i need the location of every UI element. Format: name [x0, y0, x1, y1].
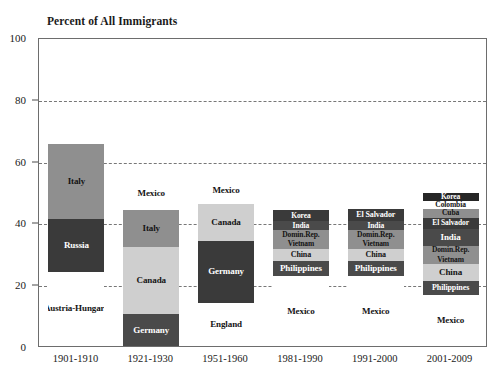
x-tick-label-1921-1930: 1921-1930 [128, 353, 174, 364]
x-tick-label-2001-2009: 2001-2009 [427, 353, 473, 364]
chart-title: Percent of All Immigrants [47, 15, 177, 27]
bar-segment[interactable]: Domin.Rep. [348, 230, 404, 239]
bar-segment-label: India [367, 222, 384, 230]
y-tick-label: 60 [15, 156, 26, 168]
bar-segment-label: Mexico [212, 186, 239, 195]
bar-segment[interactable]: Mexico [423, 295, 479, 346]
y-tick-label: 100 [10, 32, 27, 44]
bar-segment[interactable]: India [423, 229, 479, 246]
bar-segment-label: Domin.Rep. [357, 231, 394, 239]
bar-segment[interactable]: Mexico [198, 178, 254, 204]
bar-segment-label: Mexico [437, 316, 464, 325]
bar-segment[interactable]: India [348, 221, 404, 230]
bar-segment-label: Philippines [432, 284, 469, 292]
bar-segment[interactable]: Cuba [423, 209, 479, 218]
bar-segment-label: India [293, 222, 310, 230]
gridline-40 [39, 224, 486, 225]
gridline-20 [39, 286, 486, 287]
bar-segment[interactable]: China [348, 249, 404, 261]
bar-segment-label: Italy [142, 224, 160, 233]
x-tick-label-1991-2000: 1991-2000 [352, 353, 398, 364]
bar-segment[interactable]: Vietnam [273, 239, 329, 248]
immigration-stacked-bar-chart: Percent of All Immigrants 020406080100 A… [0, 0, 500, 383]
bar-1921-1930[interactable]: GermanyCanadaItalyMexico [123, 178, 179, 346]
bar-1951-1960[interactable]: EnglandGermanyCanadaMexico [198, 178, 254, 346]
bar-1991-2000[interactable]: MexicoPhilippinesChinaVietnamDomin.Rep.I… [348, 199, 404, 346]
x-tick-label-1901-1910: 1901-1910 [53, 353, 99, 364]
gridline-80 [39, 101, 486, 102]
y-axis: 020406080100 [0, 0, 38, 383]
bar-segment[interactable]: Colombia [423, 201, 479, 209]
bar-segment[interactable]: Mexico [123, 178, 179, 210]
bar-segment[interactable]: Russia [48, 219, 104, 272]
y-tick-label: 20 [15, 279, 26, 291]
bar-segment[interactable]: El Salvador [348, 209, 404, 221]
bar-segment-label: Canada [211, 218, 240, 227]
bar-segment-label: Korea [441, 193, 460, 201]
bar-segment[interactable]: Italy [123, 210, 179, 247]
x-tick-label-1951-1960: 1951-1960 [202, 353, 248, 364]
bar-segment-label: El Salvador [356, 211, 395, 219]
bar-segment-label: Germany [133, 326, 169, 335]
x-tick-label-1981-1990: 1981-1990 [277, 353, 323, 364]
bar-1981-1990[interactable]: MexicoPhilippinesChinaVietnamDomin.Rep.I… [273, 199, 329, 346]
bar-segment-label: Cuba [442, 209, 459, 217]
bar-segment-label: Germany [208, 267, 244, 276]
bar-1901-1910[interactable]: Austria-HungaryRussiaItaly [48, 144, 104, 346]
bar-segment-label: Philippines [355, 264, 397, 273]
bar-segment[interactable]: China [423, 264, 479, 281]
bar-segment[interactable]: Philippines [273, 261, 329, 276]
bar-segment-label: Mexico [138, 189, 165, 198]
bar-segment[interactable]: Domin.Rep. [273, 230, 329, 239]
bar-segment[interactable]: Korea [273, 210, 329, 221]
bar-segment[interactable]: Austria-Hungary [48, 272, 104, 346]
bar-segment-label: China [291, 251, 311, 259]
y-tick-label: 0 [21, 341, 27, 353]
bar-segment-label: India [441, 233, 461, 242]
bar-2001-2009[interactable]: MexicoPhilippinesChinaVietnamDomin.Rep.I… [423, 182, 479, 346]
y-tick-label: 80 [15, 94, 26, 106]
bar-segment-label: Domin.Rep. [432, 246, 469, 254]
bar-segment[interactable]: Philippines [348, 261, 404, 276]
bar-segment[interactable]: Germany [198, 241, 254, 303]
bar-segment[interactable]: Canada [123, 247, 179, 314]
bar-segment-label: Mexico [362, 307, 389, 316]
bar-segment-label: China [366, 251, 386, 259]
bar-segment-label: Mexico [287, 307, 314, 316]
gridline-60 [39, 163, 486, 164]
bar-segment-label: Vietnam [288, 240, 315, 248]
bar-segment[interactable]: Mexico [273, 276, 329, 346]
bar-segment-label: Italy [68, 177, 86, 186]
bar-segment-label: Canada [137, 276, 166, 285]
bar-segment-label: Colombia [435, 201, 465, 209]
bar-segment[interactable]: India [273, 221, 329, 230]
plot-area: Austria-HungaryRussiaItalyGermanyCanadaI… [38, 38, 487, 347]
y-tick-label: 40 [15, 217, 26, 229]
bar-segment[interactable]: El Salvador [423, 218, 479, 229]
bar-segment[interactable]: Vietnam [348, 239, 404, 248]
bar-segment-label: China [439, 268, 462, 277]
bar-segment[interactable]: Korea [423, 193, 479, 201]
bar-segment-label: El Salvador [432, 219, 469, 227]
bar-segment-label: Korea [291, 212, 310, 220]
bar-segment[interactable]: Philippines [423, 281, 479, 295]
bar-segment[interactable]: Vietnam [423, 255, 479, 264]
bar-segment[interactable]: Canada [198, 204, 254, 241]
bar-segment[interactable]: Italy [48, 144, 104, 220]
bar-segment-label: Domin.Rep. [282, 231, 319, 239]
bar-segment[interactable]: England [198, 303, 254, 346]
bar-segment-label: Vietnam [437, 256, 464, 264]
bar-segment-label: Philippines [280, 264, 322, 273]
bar-segment[interactable]: Mexico [348, 276, 404, 346]
bar-segment[interactable]: China [273, 249, 329, 261]
bar-segment-label: England [210, 320, 242, 329]
bar-segment-label: Russia [64, 241, 89, 250]
bar-segment[interactable]: Germany [123, 314, 179, 346]
bar-segment[interactable]: Domin.Rep. [423, 246, 479, 255]
bar-segment-label: Austria-Hungary [48, 304, 104, 313]
bar-segment-label: Vietnam [362, 240, 389, 248]
